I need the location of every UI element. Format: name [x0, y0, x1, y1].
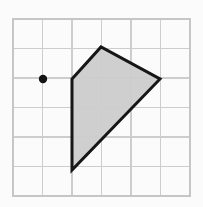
figure-canvas — [0, 0, 203, 207]
shaded-quadrilateral[interactable] — [72, 47, 160, 170]
figure-svg — [0, 0, 203, 207]
marker-dot[interactable] — [39, 75, 47, 83]
